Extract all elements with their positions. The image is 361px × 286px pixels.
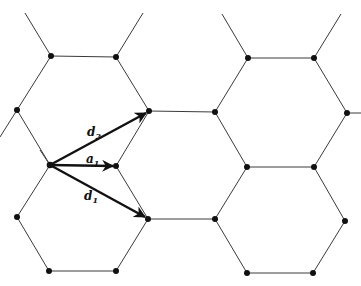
vector-a1-arrow [50,165,113,166]
label-a1: a1 [86,152,99,168]
hexagonal-lattice-diagram: d2 a1 d1 [0,0,361,286]
lattice-edges [0,13,361,273]
label-d2: d2 [87,125,101,141]
